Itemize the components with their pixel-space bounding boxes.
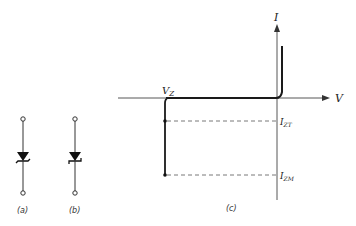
- vz-label: VZ: [162, 85, 174, 98]
- terminal-top-a: [21, 117, 25, 121]
- izm-label: IZM: [279, 171, 295, 182]
- terminal-bottom-b: [73, 191, 77, 195]
- caption-c: (c): [226, 204, 237, 213]
- caption-b: (b): [69, 206, 80, 215]
- caption-a: (a): [17, 206, 28, 215]
- forward-curve: [166, 46, 282, 98]
- diode-triangle-a: [17, 152, 29, 161]
- izt-point: [163, 119, 167, 123]
- izm-point: [163, 173, 167, 177]
- terminal-top-b: [73, 117, 77, 121]
- zener-symbol-b: (b): [69, 117, 81, 215]
- diode-triangle-b: [69, 152, 81, 161]
- zener-symbol-a: (a): [16, 117, 30, 215]
- v-axis-arrow-icon: [322, 95, 330, 101]
- breakdown-curve: [165, 98, 168, 175]
- v-axis-label: V: [335, 92, 344, 105]
- i-axis-label: I: [273, 11, 279, 24]
- iv-characteristic-graph: V I VZ IZT IZM (c): [118, 11, 344, 213]
- zener-diode-figure: (a) (b) V I VZ IZT IZM (c): [0, 0, 356, 226]
- izt-label: IZT: [279, 117, 293, 128]
- terminal-bottom-a: [21, 191, 25, 195]
- i-axis-arrow-icon: [274, 24, 280, 32]
